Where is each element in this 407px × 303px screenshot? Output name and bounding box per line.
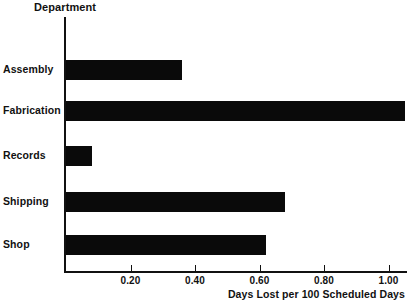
bar-shop	[66, 235, 266, 255]
bar-records	[66, 146, 92, 166]
bar-shipping	[66, 192, 285, 212]
x-axis-line	[64, 271, 407, 273]
bar-assembly	[66, 60, 182, 80]
x-tick-1.00	[389, 265, 390, 272]
x-tick-label-0.60: 0.60	[250, 275, 270, 286]
y-axis-title: Department	[34, 1, 96, 13]
x-tick-0.20	[131, 265, 132, 272]
x-tick-0.80	[324, 265, 325, 272]
category-label-assembly: Assembly	[3, 63, 53, 75]
category-label-fabrication: Fabrication	[3, 104, 61, 116]
category-label-shop: Shop	[3, 238, 30, 250]
x-tick-0.60	[260, 265, 261, 272]
x-tick-label-0.40: 0.40	[185, 275, 205, 286]
category-label-shipping: Shipping	[3, 195, 49, 207]
x-tick-label-0.20: 0.20	[121, 275, 141, 286]
bar-chart: Department AssemblyFabricationRecordsShi…	[0, 0, 407, 303]
x-axis-title: Days Lost per 100 Scheduled Days	[228, 288, 405, 300]
x-tick-label-1.00: 1.00	[379, 275, 399, 286]
bar-fabrication	[66, 101, 405, 121]
category-label-records: Records	[3, 149, 46, 161]
x-tick-label-0.80: 0.80	[314, 275, 334, 286]
x-tick-0.40	[195, 265, 196, 272]
